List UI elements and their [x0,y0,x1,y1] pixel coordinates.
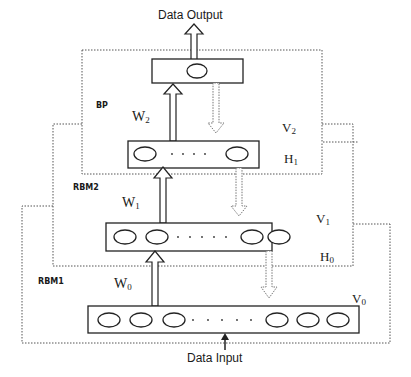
w2-arrow [164,84,182,141]
bp-output-layer [152,59,243,83]
layer-v1-label: V1 [316,212,330,227]
feedback-arrow-rbm1 [261,251,277,298]
weight-w0-label: W0 [114,277,132,292]
bp-region-label: BP [96,102,108,110]
data-output-label: Data Output [158,9,223,21]
data-input-label: Data Input [187,352,242,364]
dbn-diagram: .box { fill:#fff; stroke:#222; stroke-wi… [0,0,411,377]
layer-v0-label: V0 [352,292,366,307]
v0-layer [88,306,359,333]
layer-h1-label: H1 [284,152,298,167]
output-unit [187,64,207,78]
layer-h0-label: H0 [320,250,334,265]
feedback-arrow-bp [208,83,224,133]
h1-layer [128,141,259,168]
data-input-arrow [221,333,229,350]
v1-layer [106,223,290,251]
data-output-arrow [185,24,203,60]
feedback-arrow-rbm2 [231,168,247,216]
layer-v2-label: V2 [282,121,296,136]
w1-arrow [154,167,172,223]
w0-arrow [146,251,164,306]
weight-w1-label: W1 [122,196,140,211]
weight-w2-label: W2 [132,110,150,125]
rbm1-region-label: RBM1 [38,278,64,286]
rbm2-region-label: RBM2 [73,184,99,192]
